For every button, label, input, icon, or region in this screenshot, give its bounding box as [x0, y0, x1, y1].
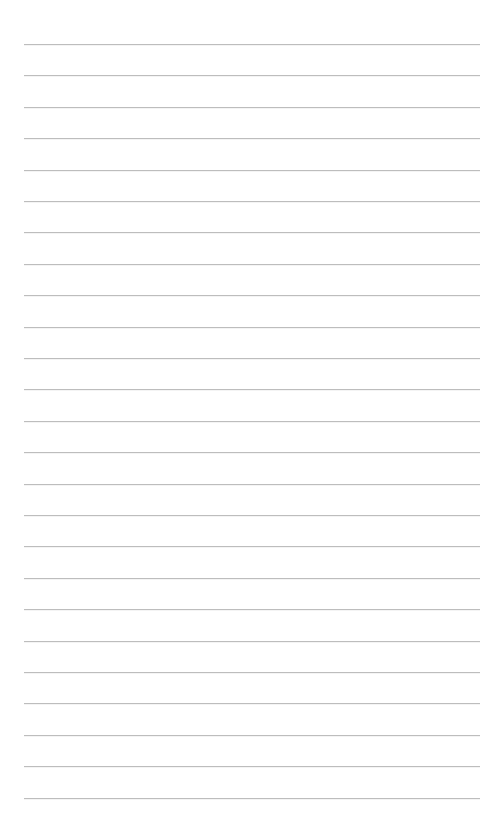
ruled-line: [24, 798, 480, 799]
ruled-line: [24, 703, 480, 704]
ruled-line: [24, 295, 480, 296]
lined-paper-page: [0, 0, 500, 827]
ruled-line: [24, 389, 480, 390]
ruled-line: [24, 515, 480, 516]
ruled-line: [24, 264, 480, 265]
ruled-line: [24, 735, 480, 736]
ruled-line: [24, 452, 480, 453]
ruled-line: [24, 327, 480, 328]
ruled-line: [24, 170, 480, 171]
ruled-line: [24, 484, 480, 485]
ruled-line: [24, 201, 480, 202]
ruled-line: [24, 641, 480, 642]
ruled-line: [24, 421, 480, 422]
ruled-line: [24, 578, 480, 579]
ruled-line: [24, 672, 480, 673]
ruled-line: [24, 138, 480, 139]
ruled-line: [24, 75, 480, 76]
ruled-line: [24, 232, 480, 233]
ruled-line: [24, 44, 480, 45]
ruled-line: [24, 609, 480, 610]
ruled-line: [24, 358, 480, 359]
ruled-line: [24, 107, 480, 108]
ruled-line: [24, 546, 480, 547]
ruled-line: [24, 766, 480, 767]
